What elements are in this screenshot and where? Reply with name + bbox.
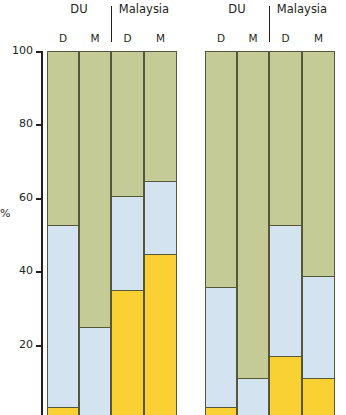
segment-yellow [48, 408, 78, 415]
panel-right: DU Malaysia D M D M [186, 0, 346, 415]
panel-right-plot [205, 51, 335, 415]
sub-label-du-m: M [79, 31, 111, 45]
bar-right-malaysia-m [302, 51, 335, 415]
segment-green [270, 51, 301, 226]
segment-blue [112, 197, 143, 292]
stacked-bar-chart-figure: 100 80 60 40 20 % DU Malaysia D M D M [0, 0, 346, 415]
bar-right-malaysia-d [269, 51, 302, 415]
segment-blue [238, 379, 268, 415]
segment-blue [303, 277, 334, 379]
bar-left-malaysia-d [111, 51, 144, 415]
panel-right-sub-labels: D M D M [186, 31, 346, 47]
segment-green [145, 51, 176, 182]
group-label-malaysia: Malaysia [111, 1, 177, 17]
segment-blue [270, 226, 301, 357]
segment-green [80, 51, 110, 328]
panel-left-plot-top-border [47, 51, 177, 52]
group-label-malaysia: Malaysia [269, 1, 335, 17]
segment-yellow [145, 255, 176, 415]
sub-label-du-d: D [205, 31, 237, 45]
panel-left-group-labels: DU Malaysia [0, 0, 186, 20]
sub-label-malaysia-d: D [111, 31, 144, 45]
panel-right-group-labels: DU Malaysia [186, 0, 346, 20]
segment-yellow [270, 357, 301, 415]
segment-yellow [303, 379, 334, 415]
bar-left-malaysia-m [144, 51, 177, 415]
segment-blue [206, 288, 236, 408]
segment-green [112, 51, 143, 197]
segment-green [303, 51, 334, 277]
panel-left-sub-labels: D M D M [0, 31, 186, 47]
segment-yellow [206, 408, 236, 415]
bar-left-du-m [79, 51, 111, 415]
sub-label-du-d: D [47, 31, 79, 45]
segment-green [206, 51, 236, 288]
segment-yellow [112, 291, 143, 415]
group-label-du: DU [47, 1, 111, 17]
panel-left-plot [47, 51, 177, 415]
sub-label-malaysia-d: D [269, 31, 302, 45]
sub-label-du-m: M [237, 31, 269, 45]
group-label-du: DU [205, 1, 269, 17]
segment-green [48, 51, 78, 226]
segment-blue [145, 182, 176, 255]
bar-right-du-d [205, 51, 237, 415]
sub-label-malaysia-m: M [144, 31, 177, 45]
sub-label-malaysia-m: M [302, 31, 335, 45]
panel-right-plot-top-border [205, 51, 335, 52]
bar-left-du-d [47, 51, 79, 415]
bar-right-du-m [237, 51, 269, 415]
segment-green [238, 51, 268, 379]
segment-blue [80, 328, 110, 415]
panel-left: DU Malaysia D M D M [0, 0, 186, 415]
segment-blue [48, 226, 78, 408]
